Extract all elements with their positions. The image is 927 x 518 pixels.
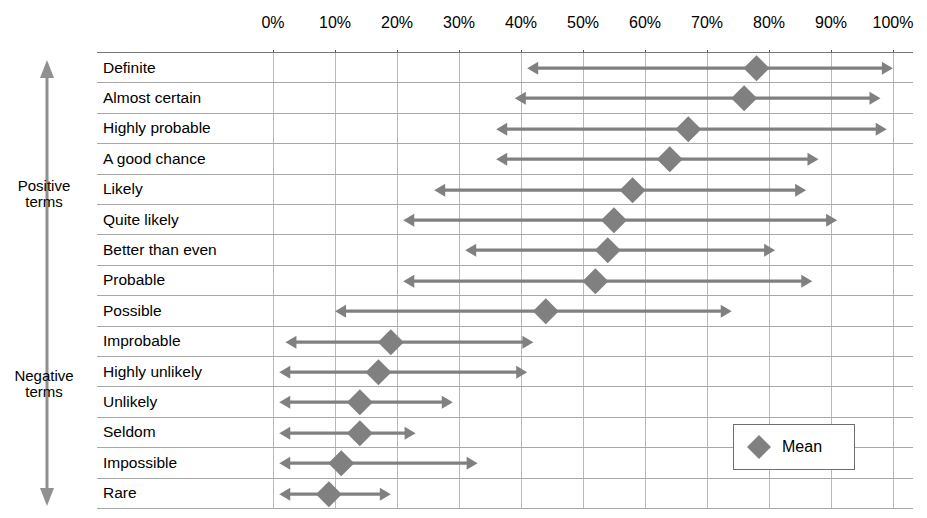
x-tick-label-90: 90% (815, 14, 847, 32)
x-axis-tick-labels: 0%10%20%30%40%50%60%70%80%90%100% (0, 14, 927, 36)
range-arrow-icon (97, 387, 913, 417)
row-label: Better than even (103, 241, 217, 259)
chart-row: Definite (97, 53, 913, 83)
direction-arrow-icon (38, 58, 56, 508)
range-arrow-icon (97, 357, 913, 387)
row-label: Improbable (103, 332, 181, 350)
row-label: Quite likely (103, 211, 179, 229)
mean-marker (328, 450, 354, 476)
x-tick-label-60: 60% (629, 14, 661, 32)
chart-row: Highly unlikely (97, 357, 913, 387)
negative-terms-label: Negative terms (0, 368, 88, 400)
range-arrow-icon (97, 205, 913, 235)
mean-marker (744, 55, 770, 81)
chart-row: Likely (97, 175, 913, 205)
row-label: Rare (103, 484, 137, 502)
x-tick-label-10: 10% (319, 14, 351, 32)
mean-marker (601, 207, 627, 233)
mean-marker (347, 420, 373, 446)
row-label: Impossible (103, 454, 177, 472)
mean-marker (620, 177, 646, 203)
chart-row: Quite likely (97, 205, 913, 235)
chart-row: Rare (97, 479, 913, 509)
mean-marker (675, 116, 701, 142)
row-label: Likely (103, 180, 143, 198)
row-label: A good chance (103, 150, 206, 168)
positive-terms-line2: terms (0, 194, 88, 210)
x-tick-label-0: 0% (261, 14, 284, 32)
range-arrow-icon (97, 266, 913, 296)
chart-row: Probable (97, 266, 913, 296)
chart-row: Unlikely (97, 387, 913, 417)
chart-row: Almost certain (97, 83, 913, 113)
row-label: Seldom (103, 423, 156, 441)
range-arrow-icon (97, 479, 913, 509)
row-label: Almost certain (103, 89, 201, 107)
range-arrow-icon (97, 296, 913, 326)
range-arrow-icon (97, 175, 913, 205)
row-label: Possible (103, 302, 162, 320)
mean-marker (316, 481, 342, 507)
x-tick-label-100: 100% (873, 14, 914, 32)
positive-terms-line1: Positive (0, 178, 88, 194)
chart-row: Better than even (97, 235, 913, 265)
row-label: Definite (103, 59, 156, 77)
mean-marker (595, 238, 621, 264)
probability-terms-range-chart: Positive terms Negative terms 0%10%20%30… (0, 0, 927, 518)
x-tick-label-80: 80% (753, 14, 785, 32)
chart-row: A good chance (97, 144, 913, 174)
x-tick-label-30: 30% (443, 14, 475, 32)
x-tick-label-40: 40% (505, 14, 537, 32)
mean-marker (533, 298, 559, 324)
negative-terms-line1: Negative (0, 368, 88, 384)
mean-marker (657, 146, 683, 172)
negative-terms-line2: terms (0, 384, 88, 400)
mean-marker (731, 86, 757, 112)
mean-marker (378, 329, 404, 355)
chart-row: Possible (97, 296, 913, 326)
row-label: Highly probable (103, 119, 211, 137)
range-arrow-icon (97, 144, 913, 174)
positive-terms-label: Positive terms (0, 178, 88, 210)
range-arrow-icon (97, 53, 913, 83)
direction-axis (38, 58, 56, 508)
mean-marker (365, 359, 391, 385)
range-arrow-icon (97, 327, 913, 357)
row-label: Highly unlikely (103, 363, 202, 381)
legend-label: Mean (782, 438, 822, 456)
legend: Mean (733, 424, 855, 470)
diamond-marker-icon (746, 434, 772, 460)
chart-row: Improbable (97, 327, 913, 357)
x-tick-label-50: 50% (567, 14, 599, 32)
range-arrow-icon (97, 83, 913, 113)
chart-row: Highly probable (97, 114, 913, 144)
row-label: Probable (103, 271, 165, 289)
range-arrow-icon (97, 235, 913, 265)
x-tick-label-20: 20% (381, 14, 413, 32)
mean-marker (582, 268, 608, 294)
row-label: Unlikely (103, 393, 157, 411)
mean-marker (347, 390, 373, 416)
range-arrow-icon (97, 114, 913, 144)
x-tick-label-70: 70% (691, 14, 723, 32)
